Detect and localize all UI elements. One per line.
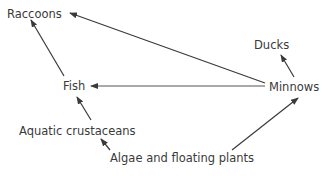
node-raccoons: Raccoons — [7, 7, 62, 21]
node-fish: Fish — [63, 79, 85, 93]
edge-minnows-to-ducks — [281, 55, 294, 77]
edge-fish-to-raccoons — [31, 20, 64, 76]
node-aquatic-crustaceans: Aquatic crustaceans — [19, 124, 136, 138]
edge-algae-to-minnows — [232, 98, 298, 150]
node-ducks: Ducks — [254, 38, 289, 52]
edge-algae-to-crustaceans — [101, 139, 110, 150]
edge-minnows-to-raccoons — [70, 13, 265, 83]
food-web-diagram: Raccoons Ducks Fish Minnows Aquatic crus… — [0, 0, 329, 176]
edge-crustaceans-to-fish — [77, 97, 91, 120]
node-minnows: Minnows — [269, 80, 319, 94]
node-algae-and-floating-plants: Algae and floating plants — [110, 151, 254, 165]
